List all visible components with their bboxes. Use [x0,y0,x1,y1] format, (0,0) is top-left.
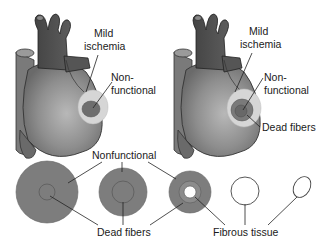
label-nonfunctional: Nonfunctional [92,150,156,161]
label-left-mild: Mild [94,28,113,39]
label-dead-fibers: Dead fibers [97,227,151,238]
label-right-mild: Mild [249,26,268,37]
label-fibrous-tissue: Fibrous tissue [213,227,278,238]
label-right-non: Non- [264,72,287,83]
label-left-ischemia: ischemia [84,41,125,52]
section-5 [290,173,315,200]
label-left-non: Non- [111,72,134,83]
label-left-functional: functional [111,85,156,96]
nonfunctional-zone [82,101,100,117]
label-right-functional: functional [264,85,309,96]
cross-sections [16,161,314,225]
label-right-dead-fibers: Dead fibers [262,122,316,133]
section-4 [231,177,259,205]
label-right-ischemia: ischemia [240,39,281,50]
